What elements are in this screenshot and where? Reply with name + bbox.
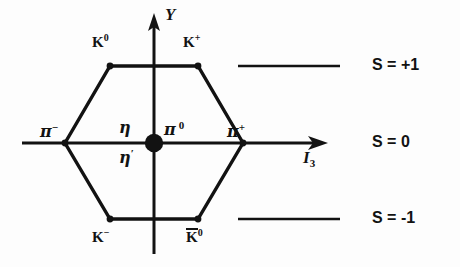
strangeness-minus-1-text: S = -1 bbox=[372, 209, 415, 226]
particle-label-k0: K0 bbox=[92, 33, 109, 50]
particle-label-eta: η bbox=[119, 120, 131, 136]
strangeness-label-minus-1: S = -1 bbox=[372, 210, 415, 226]
particle-pi-plus-superscript: + bbox=[239, 121, 245, 133]
strangeness-label-plus-1: S = +1 bbox=[372, 57, 419, 73]
particle-k0-bar-base: K bbox=[186, 229, 198, 245]
particle-k-plus-base: K bbox=[183, 34, 195, 50]
particle-pi-minus-base: π bbox=[40, 122, 52, 141]
particle-label-pi-minus: π− bbox=[40, 122, 58, 140]
i3-axis-label: I3 bbox=[303, 149, 315, 169]
strangeness-label-zero: S = 0 bbox=[372, 134, 410, 150]
particle-k0-base: K bbox=[92, 34, 104, 50]
y-axis-label-text: Y bbox=[165, 5, 175, 24]
particle-k0-superscript: 0 bbox=[104, 32, 109, 43]
particle-label-k0-bar: K0 bbox=[186, 228, 203, 245]
particle-label-pi-plus: π+ bbox=[227, 122, 245, 140]
strangeness-plus-1-text: S = +1 bbox=[372, 56, 419, 73]
meson-weight-diagram: Y I3 K0 K+ π− η η′ π0 π+ K− K0 S = +1 bbox=[0, 0, 460, 267]
y-axis-label: Y bbox=[165, 6, 175, 23]
particle-k-plus-superscript: + bbox=[195, 32, 201, 43]
particle-k-minus-base: K bbox=[92, 229, 104, 245]
particle-pi-zero-base: π bbox=[164, 120, 176, 139]
particle-pi-minus-superscript: − bbox=[52, 121, 58, 133]
i3-axis-label-subscript: 3 bbox=[310, 157, 316, 169]
center-state-dot bbox=[145, 134, 163, 152]
particle-eta-base: η bbox=[119, 118, 131, 137]
i3-axis-label-base: I bbox=[303, 148, 310, 167]
particle-k-minus-superscript: − bbox=[104, 227, 110, 238]
particle-pi-plus-base: π bbox=[227, 122, 239, 141]
particle-label-eta-prime: η′ bbox=[119, 148, 134, 166]
particle-label-k-plus: K+ bbox=[183, 33, 200, 50]
particle-k0-bar-superscript: 0 bbox=[198, 227, 203, 238]
particle-label-pi-zero: π0 bbox=[164, 120, 184, 138]
particle-k0-bar-base-with-overbar: K bbox=[186, 230, 198, 245]
particle-eta-prime-superscript: ′ bbox=[131, 147, 134, 159]
particle-eta-prime-base: η bbox=[119, 148, 131, 167]
particle-pi-zero-superscript: 0 bbox=[179, 119, 185, 131]
particle-label-k-minus: K− bbox=[92, 228, 109, 245]
strangeness-zero-text: S = 0 bbox=[372, 133, 410, 150]
